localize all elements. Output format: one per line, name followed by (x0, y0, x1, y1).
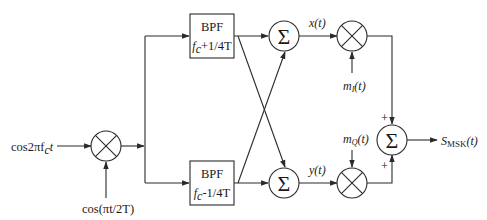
i-branch-to-output-sum (367, 36, 392, 124)
x-signal-label: x(t) (308, 16, 326, 30)
bpf-top-block: BPF fc+1/4T (190, 14, 234, 58)
summer-output: Σ (377, 125, 407, 155)
msk-modulator-diagram: cos2πfct cos(πt/2T) BPF fc+1/4T BPF fc-1… (0, 0, 487, 220)
bpf-top-label: BPF (201, 20, 223, 34)
plus-bottom-sign: + (381, 159, 388, 173)
multiplier-input (91, 131, 121, 161)
svg-text:Σ: Σ (278, 171, 291, 196)
q-branch-to-output-sum (367, 155, 392, 183)
multiplier-q (337, 168, 367, 198)
mI-label: mI(t) (343, 79, 366, 94)
y-signal-label: y(t) (308, 163, 326, 177)
summer-top: Σ (269, 21, 299, 51)
svg-text:Σ: Σ (278, 24, 291, 49)
cross-bottom-to-top (238, 52, 285, 183)
cross-top-to-bottom (238, 36, 285, 167)
mQ-label: mQ(t) (343, 132, 369, 147)
summer-bottom: Σ (269, 168, 299, 198)
modulating-input-label: cos(πt/2T) (82, 202, 134, 216)
multiplier-i (337, 21, 367, 51)
carrier-input-label: cos2πfct (11, 140, 54, 157)
plus-top-sign: + (381, 111, 388, 125)
output-label: SMSK(t) (441, 134, 478, 149)
bpf-bottom-block: BPF fc-1/4T (190, 161, 234, 205)
svg-text:Σ: Σ (386, 128, 399, 153)
bpf-bottom-label: BPF (201, 167, 223, 181)
